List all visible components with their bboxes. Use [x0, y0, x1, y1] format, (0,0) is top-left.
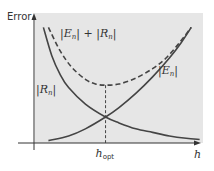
x-axis-label: h	[194, 148, 201, 161]
svg-text:|En| + |Rn|: |En| + |Rn|	[60, 27, 116, 41]
sum-curve-label: |En| + |Rn|	[60, 27, 116, 41]
r-n-curve-label: |Rn|	[36, 83, 56, 97]
error-vs-step-chart: Error h hopt |En| + |Rn| |Rn| |En|	[0, 0, 214, 171]
e-n-curve-label: |En|	[158, 64, 178, 78]
y-axis-label: Error	[7, 11, 32, 22]
h-opt-label: hopt	[96, 147, 115, 161]
